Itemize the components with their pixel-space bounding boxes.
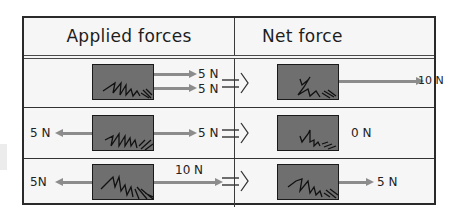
net-force-arrow bbox=[339, 80, 417, 83]
force-arrow-right bbox=[154, 132, 190, 135]
scribble-icon bbox=[93, 165, 154, 200]
force-arrow-left bbox=[62, 181, 92, 184]
force-arrow-right bbox=[154, 181, 216, 184]
net-force-label: 0 N bbox=[351, 127, 371, 139]
force-label: 10 N bbox=[175, 164, 203, 176]
applied-block bbox=[92, 115, 154, 151]
force-arrow-right bbox=[154, 87, 190, 90]
table-header: Applied forces Net force bbox=[24, 18, 434, 59]
force-label: 5 N bbox=[30, 127, 50, 139]
scribble-icon bbox=[93, 116, 154, 151]
net-force-label: 10 N bbox=[418, 75, 444, 87]
force-label: 5 N bbox=[198, 68, 218, 80]
net-block bbox=[277, 115, 339, 151]
side-tab-decoration bbox=[0, 144, 7, 170]
forces-table: Applied forces Net force 5 N 5 N 10 N bbox=[22, 16, 436, 205]
scribble-icon bbox=[278, 116, 339, 151]
implies-icon bbox=[221, 170, 255, 192]
force-label: 5 N bbox=[198, 83, 218, 95]
net-block bbox=[277, 64, 339, 100]
scribble-icon bbox=[93, 65, 154, 100]
applied-block bbox=[92, 64, 154, 100]
net-block bbox=[277, 164, 339, 200]
scribble-icon bbox=[278, 65, 339, 100]
header-net-force: Net force bbox=[234, 18, 434, 55]
scribble-icon bbox=[278, 165, 339, 200]
table-row: 5 N 5 N 0 N bbox=[24, 107, 434, 158]
force-label: 5 N bbox=[198, 127, 218, 139]
force-arrow-left bbox=[62, 132, 92, 135]
table-row: 5 N 5 N 10 N bbox=[24, 59, 434, 110]
implies-icon bbox=[221, 122, 255, 144]
table-row: 5N 10 N 5 N bbox=[24, 158, 434, 205]
applied-block bbox=[92, 164, 154, 200]
header-applied-forces: Applied forces bbox=[24, 18, 234, 55]
implies-icon bbox=[221, 72, 255, 94]
force-arrow-right bbox=[154, 73, 190, 76]
net-force-arrow bbox=[339, 181, 367, 184]
force-label: 5N bbox=[30, 176, 47, 188]
net-force-label: 5 N bbox=[377, 176, 397, 188]
